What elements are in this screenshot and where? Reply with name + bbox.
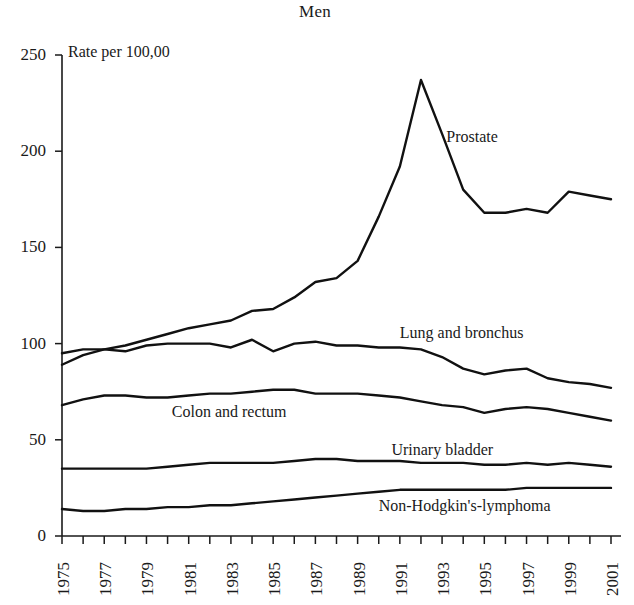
x-tick-label: 1981	[182, 562, 199, 596]
y-tick-label: 50	[4, 431, 46, 448]
series-label-urinary-bladder: Urinary bladder	[391, 442, 493, 458]
y-tick-label: 250	[4, 46, 46, 63]
plot-area	[0, 0, 634, 605]
x-tick-label: 1977	[97, 562, 114, 596]
x-tick-label: 1995	[477, 562, 494, 596]
y-axis-tick-labels: 050100150200250	[0, 0, 46, 605]
axes	[55, 55, 621, 544]
x-tick-label: 1997	[520, 562, 537, 596]
data-line-urinary-bladder	[62, 459, 611, 469]
y-tick-label: 200	[4, 142, 46, 159]
chart-title-text: Men	[299, 2, 331, 22]
series-label-prostate: Prostate	[446, 129, 498, 145]
y-tick-label: 0	[4, 527, 46, 544]
x-tick-label: 1999	[562, 562, 579, 596]
x-tick-label: 1985	[266, 562, 283, 596]
x-tick-label: 1979	[139, 562, 156, 596]
x-tick-label: 1989	[351, 562, 368, 596]
x-tick-label: 2001	[604, 562, 621, 596]
y-tick-label: 150	[4, 238, 46, 255]
series-label-non-hodgkin-s-lymphoma: Non-Hodgkin's-lymphoma	[379, 498, 551, 514]
series-label-lung-and-bronchus: Lung and bronchus	[400, 325, 524, 341]
data-line-prostate	[62, 80, 611, 365]
x-tick-label: 1975	[55, 562, 72, 596]
y-tick-label: 100	[4, 335, 46, 352]
x-tick-label: 1983	[224, 562, 241, 596]
chart-title: Men	[0, 2, 634, 22]
data-line-colon-and-rectum	[62, 390, 611, 421]
data-lines	[62, 80, 611, 511]
x-tick-label: 1993	[435, 562, 452, 596]
data-line-lung-and-bronchus	[62, 340, 611, 388]
series-label-colon-and-rectum: Colon and rectum	[172, 404, 287, 420]
x-tick-label: 1987	[308, 562, 325, 596]
x-tick-label: 1991	[393, 562, 410, 596]
chart-figure: Men Rate per 100,00 050100150200250 1975…	[0, 0, 634, 605]
y-axis-caption: Rate per 100,00	[68, 43, 170, 61]
